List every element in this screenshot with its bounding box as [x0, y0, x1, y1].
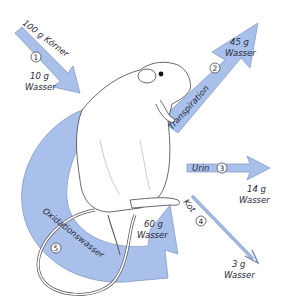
flow-5-amount: 60 g	[144, 219, 164, 229]
flow-1-unit: Wasser	[25, 82, 56, 92]
flow-3-number: 3	[220, 164, 225, 173]
flow-3-unit: Wasser	[239, 195, 270, 205]
flow-4-number: 4	[199, 217, 204, 226]
flow-3-amount: 14 g	[247, 184, 267, 194]
water-balance-diagram: 100 g Körner 1 10 g Wasser Transpiration…	[0, 0, 287, 308]
flow-1-amount: 10 g	[30, 71, 50, 81]
flow-4-amount: 3 g	[232, 259, 246, 269]
urine-label: Urin	[192, 163, 209, 173]
flow-2-unit: Wasser	[225, 48, 256, 58]
flow-1-number: 1	[34, 53, 39, 62]
flow-4-unit: Wasser	[224, 270, 255, 280]
flow-5-number: 5	[54, 244, 59, 253]
flow-2-number: 2	[213, 64, 218, 73]
flow-2-amount: 45 g	[230, 37, 250, 47]
flow-4-labels: Kot 4 3 g Wasser	[181, 197, 255, 280]
feces-arrow	[193, 197, 258, 263]
flow-5-unit: Wasser	[137, 230, 168, 240]
